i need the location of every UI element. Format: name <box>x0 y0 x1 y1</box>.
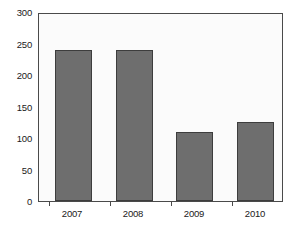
y-axis: 300 250 200 150 100 50 0 <box>0 0 38 228</box>
x-tick-mark-2 <box>171 202 172 206</box>
x-axis-label-2010: 2010 <box>245 209 265 219</box>
y-axis-label-50: 50 <box>0 166 32 176</box>
x-tick-mark-1 <box>110 202 111 206</box>
plot-area <box>38 13 283 202</box>
y-axis-label-0: 0 <box>0 197 32 207</box>
y-axis-label-150: 150 <box>0 103 32 113</box>
bar-chart: 300 250 200 150 100 50 0 2007 2008 2009 … <box>0 0 295 228</box>
bar-2009 <box>176 132 213 201</box>
x-axis-label-2008: 2008 <box>123 209 143 219</box>
bar-2007 <box>55 50 92 201</box>
y-axis-label-200: 200 <box>0 71 32 81</box>
x-axis-label-2009: 2009 <box>184 209 204 219</box>
y-axis-label-100: 100 <box>0 134 32 144</box>
x-tick-mark-0 <box>49 202 50 206</box>
bar-2010 <box>237 122 274 201</box>
x-tick-mark-3 <box>232 202 233 206</box>
y-axis-label-250: 250 <box>0 40 32 50</box>
x-axis-label-2007: 2007 <box>62 209 82 219</box>
y-axis-label-300: 300 <box>0 8 32 18</box>
bar-2008 <box>116 50 153 201</box>
